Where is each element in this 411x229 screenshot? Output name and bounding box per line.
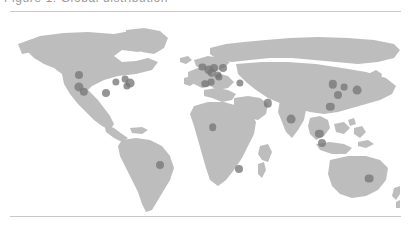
map-marker <box>209 123 217 131</box>
map-marker <box>235 165 243 173</box>
top-divider-rule <box>10 11 401 12</box>
map-marker <box>102 89 110 97</box>
map-marker <box>236 79 243 86</box>
map-marker <box>318 139 326 147</box>
map-markers-layer <box>18 28 400 212</box>
bottom-divider-rule <box>10 216 401 217</box>
map-marker <box>124 82 131 89</box>
map-marker <box>215 74 222 81</box>
map-marker <box>334 91 342 99</box>
map-marker <box>315 129 323 137</box>
map-marker <box>365 174 374 183</box>
map-marker <box>208 79 215 86</box>
map-marker <box>326 103 334 111</box>
map-marker <box>79 88 87 96</box>
map-marker <box>263 99 271 107</box>
world-map <box>18 28 400 212</box>
map-marker <box>156 161 164 169</box>
map-marker <box>112 78 119 85</box>
figure-caption-strip: Figure 1: Global distribution <box>0 0 411 9</box>
figure-caption: Figure 1: Global distribution <box>4 0 168 5</box>
map-marker <box>219 64 227 72</box>
map-marker <box>328 80 336 88</box>
map-marker <box>287 114 296 123</box>
figure-root: Figure 1: Global distribution <box>0 0 411 229</box>
map-marker <box>340 84 347 91</box>
map-marker <box>353 85 362 94</box>
map-marker <box>75 71 83 79</box>
